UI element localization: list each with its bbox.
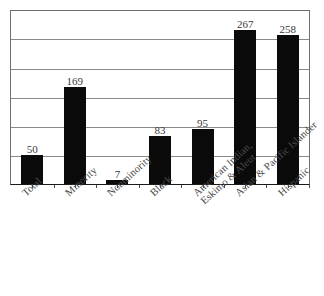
bar-value-label: 50 [27,143,38,155]
bar-value-label: 267 [237,18,254,30]
x-tick [54,185,55,188]
bar-value-label: 169 [67,75,84,87]
bar-value-label: 83 [155,124,166,136]
bars-layer: 5016978395267258 [11,11,309,184]
bar-minority: 169 [64,87,86,184]
x-tick [181,185,182,188]
x-tick [96,185,97,188]
x-tick [139,185,140,188]
bar-value-label: 95 [197,117,208,129]
bar-value-label: 258 [279,23,296,35]
bar-rect: 169 [64,87,86,184]
x-tick [266,185,267,188]
bar-chart: 5016978395267258 TotalMinorityNonminorit… [0,0,324,296]
x-tick [309,185,310,188]
